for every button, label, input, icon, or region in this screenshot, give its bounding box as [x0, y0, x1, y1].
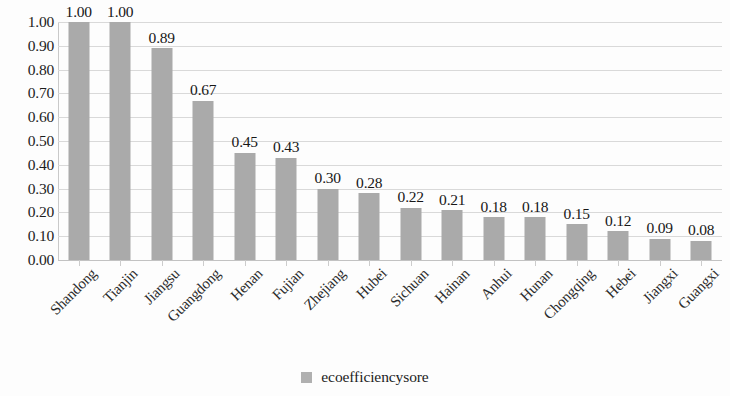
bar-slot: 0.09 — [639, 22, 681, 260]
bar-value-label: 0.18 — [522, 199, 548, 215]
x-axis-labels: ShandongTianjinJiangsuGuangdongHenanFuji… — [58, 266, 722, 352]
bar[interactable] — [317, 189, 338, 260]
plot-area: 1.001.000.890.670.450.430.300.280.220.21… — [58, 22, 722, 260]
y-axis-tick-label: 0.90 — [4, 38, 54, 54]
bar-slot: 0.21 — [432, 22, 474, 260]
bar-value-label: 0.12 — [605, 213, 631, 229]
y-axis-tick-label: 0.50 — [4, 133, 54, 149]
bar-slot: 0.28 — [349, 22, 391, 260]
chart-legend: ecoefficiencysore — [0, 368, 730, 386]
bar-value-label: 1.00 — [66, 4, 92, 20]
bar-value-label: 0.08 — [688, 222, 714, 238]
bar-value-label: 0.09 — [647, 220, 673, 236]
bar-slot: 0.18 — [473, 22, 515, 260]
bar-value-label: 0.21 — [439, 192, 465, 208]
bar[interactable] — [359, 193, 380, 260]
bar[interactable] — [193, 101, 214, 260]
bar-value-label: 0.28 — [356, 175, 382, 191]
bar[interactable] — [442, 210, 463, 260]
bar[interactable] — [234, 153, 255, 260]
y-axis-tick-label: 0.00 — [4, 252, 54, 268]
y-axis-tick-label: 0.10 — [4, 228, 54, 244]
bar[interactable] — [649, 239, 670, 260]
bar-value-label: 0.22 — [398, 189, 424, 205]
bar[interactable] — [691, 241, 712, 260]
bar[interactable] — [566, 224, 587, 260]
bar-slot: 0.89 — [141, 22, 183, 260]
y-axis-tick-label: 0.70 — [4, 86, 54, 102]
y-axis-tick-label: 0.30 — [4, 181, 54, 197]
bar[interactable] — [68, 22, 89, 260]
bar-value-label: 0.15 — [564, 206, 590, 222]
bar[interactable] — [110, 22, 131, 260]
legend-label: ecoefficiencysore — [321, 368, 428, 386]
bar-value-label: 0.18 — [481, 199, 507, 215]
y-axis-tick-label: 0.20 — [4, 205, 54, 221]
y-axis-tick-label: 0.80 — [4, 62, 54, 78]
bar-value-label: 0.67 — [190, 82, 216, 98]
bar-value-label: 0.89 — [149, 30, 175, 46]
y-axis-tick-label: 0.60 — [4, 109, 54, 125]
bar-slot: 0.30 — [307, 22, 349, 260]
legend-swatch-icon — [301, 372, 312, 383]
bar[interactable] — [400, 208, 421, 260]
bar-chart: 1.000.900.800.700.600.500.400.300.200.10… — [0, 0, 730, 396]
bar-value-label: 0.30 — [315, 170, 341, 186]
y-axis-labels: 1.000.900.800.700.600.500.400.300.200.10… — [0, 22, 54, 260]
bar[interactable] — [151, 48, 172, 260]
bar[interactable] — [525, 217, 546, 260]
bar-slot: 1.00 — [100, 22, 142, 260]
bar-slot: 0.08 — [681, 22, 723, 260]
bar-slot: 0.43 — [266, 22, 308, 260]
bar-slot: 0.67 — [183, 22, 225, 260]
bar[interactable] — [483, 217, 504, 260]
bar-slot: 0.12 — [598, 22, 640, 260]
bar-value-label: 1.00 — [107, 4, 133, 20]
y-axis-tick-label: 1.00 — [4, 14, 54, 30]
bar-slot: 0.22 — [390, 22, 432, 260]
bar[interactable] — [608, 231, 629, 260]
bar-value-label: 0.43 — [273, 139, 299, 155]
bar-value-label: 0.45 — [232, 134, 258, 150]
y-axis-tick-label: 0.40 — [4, 157, 54, 173]
bar-slot: 0.45 — [224, 22, 266, 260]
bar-slot: 1.00 — [58, 22, 100, 260]
bar-slot: 0.18 — [515, 22, 557, 260]
bar[interactable] — [276, 158, 297, 260]
bar-slot: 0.15 — [556, 22, 598, 260]
